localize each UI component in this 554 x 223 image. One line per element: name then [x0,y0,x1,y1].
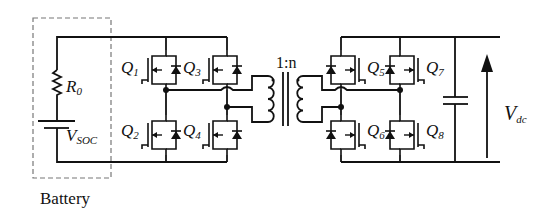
node-primary-right [224,104,230,110]
label-q5: Q5 [367,59,385,78]
label-vsoc: VSOC [66,127,97,146]
vdc-arrow-icon [481,54,493,72]
label-vdc: Vdc [504,103,527,125]
label-q8: Q8 [426,122,444,141]
mosfet-q3 [203,50,242,90]
label-r0: R0 [66,78,82,97]
label-battery: Battery [40,190,90,207]
label-q6: Q6 [367,122,385,141]
resistor-r0 [53,70,61,120]
label-q7: Q7 [426,59,444,78]
mosfet-q7 [385,50,424,90]
mosfet-q1 [142,50,181,90]
mosfet-q5 [326,50,365,90]
polarity-dot-primary [272,79,275,82]
mosfet-q4 [203,115,242,155]
node-secondary-left [338,104,344,110]
mosfet-q8 [385,115,424,155]
mosfet-q6 [326,115,365,155]
label-q4: Q4 [183,122,201,141]
label-turns-ratio: 1:n [276,55,296,71]
battery-wire-top [57,37,227,70]
label-q2: Q2 [121,122,139,141]
label-q1: Q1 [121,59,139,78]
label-q3: Q3 [183,59,201,78]
polarity-dot-secondary [297,79,300,82]
battery-box [33,18,111,178]
mosfet-q2 [142,115,181,155]
